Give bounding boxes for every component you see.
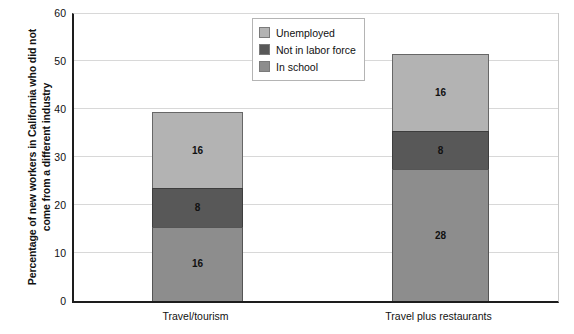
x-axis-tick-label: Travel/tourism [162, 310, 228, 322]
segment-value-label: 16 [435, 88, 446, 98]
bar-segment[interactable]: 16 [152, 112, 243, 189]
bar-1[interactable]: 16816 [152, 112, 243, 301]
legend-swatch-icon [259, 44, 270, 55]
legend-swatch-icon [259, 27, 270, 38]
legend: UnemployedNot in labor forceIn school [252, 18, 365, 81]
y-axis-title: Percentage of new workers in California … [22, 7, 56, 307]
segment-value-label: 8 [438, 146, 444, 156]
legend-swatch-icon [259, 61, 270, 72]
legend-item-in-school[interactable]: In school [259, 58, 356, 75]
bar-2[interactable]: 28816 [392, 54, 489, 301]
segment-value-label: 16 [192, 259, 203, 269]
bar-segment[interactable]: 28 [392, 169, 489, 301]
legend-item-label: Not in labor force [276, 44, 356, 56]
legend-item-unemployed[interactable]: Unemployed [259, 24, 356, 41]
bar-segment[interactable]: 16 [392, 54, 489, 131]
y-axis-title-line-2: come from a different industry [39, 83, 53, 232]
bar-segment[interactable]: 16 [152, 227, 243, 301]
legend-item-not-in-labor-force[interactable]: Not in labor force [259, 41, 356, 58]
segment-value-label: 16 [192, 146, 203, 156]
y-axis-title-line-1: Percentage of new workers in California … [25, 29, 39, 285]
x-axis-tick-label: Travel plus restaurants [385, 310, 491, 322]
legend-item-label: Unemployed [276, 27, 335, 39]
segment-value-label: 28 [435, 231, 446, 241]
bar-segment[interactable]: 8 [152, 188, 243, 226]
stacked-bar-chart: Percentage of new workers in California … [0, 0, 574, 334]
bar-segment[interactable]: 8 [392, 131, 489, 169]
legend-item-label: In school [276, 61, 318, 73]
gridline [74, 13, 558, 14]
segment-value-label: 8 [195, 203, 201, 213]
